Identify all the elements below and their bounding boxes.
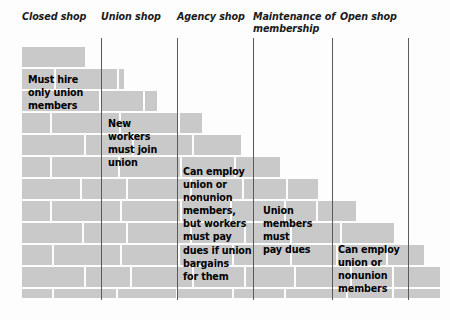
divider-3 xyxy=(253,38,254,300)
brick-r9-c3 xyxy=(128,223,190,243)
brick-r6-c1 xyxy=(22,157,50,177)
brick-r7-c2 xyxy=(82,179,126,199)
brick-r12-c1 xyxy=(22,289,52,298)
brick-r5-c4 xyxy=(194,135,241,155)
divider-1 xyxy=(101,38,102,300)
brick-r8-c2 xyxy=(52,201,120,221)
brick-r12-c3 xyxy=(118,289,176,298)
caption-maintenance-of-membership: Union members must pay dues xyxy=(263,204,312,256)
brick-r4-c1 xyxy=(22,113,50,133)
brick-r11-c8 xyxy=(394,267,440,287)
brick-r5-c1 xyxy=(22,135,84,155)
brick-r4-c4 xyxy=(180,113,202,133)
divider-4 xyxy=(332,38,333,300)
caption-union-shop: New workers must join union xyxy=(108,117,157,169)
caption-closed-shop: Must hire only union members xyxy=(28,73,83,112)
brick-r7-c3 xyxy=(128,179,190,199)
brick-r12-c8 xyxy=(394,289,440,298)
brick-r12-c2 xyxy=(54,289,116,298)
brick-r3-c3 xyxy=(145,91,157,111)
caption-agency-shop: Can employ union or nonunion members, bu… xyxy=(183,165,251,283)
brick-r11-c1 xyxy=(22,267,84,287)
column-header-maintenance-of-membership: Maintenance of membership xyxy=(253,11,335,34)
brick-r8-c3 xyxy=(122,201,180,221)
brick-r8-c7 xyxy=(318,201,356,221)
brick-r9-c7 xyxy=(342,223,394,243)
brick-r12-c4 xyxy=(178,289,232,298)
brick-r12-c6 xyxy=(286,289,346,298)
divider-5 xyxy=(408,38,409,300)
caption-open-shop: Can employ union or nonunion members xyxy=(338,243,400,295)
brick-r12-c5 xyxy=(234,289,284,298)
brick-r11-c2 xyxy=(86,267,130,287)
brick-r7-c6 xyxy=(288,179,318,199)
figure-canvas: Closed shopUnion shopAgency shopMaintena… xyxy=(0,0,450,320)
brick-r3-c2 xyxy=(101,91,143,111)
brick-r8-c1 xyxy=(22,201,50,221)
column-header-closed-shop: Closed shop xyxy=(22,11,86,23)
brick-r9-c2 xyxy=(84,223,126,243)
divider-2 xyxy=(177,38,178,300)
brick-r10-c3 xyxy=(122,245,178,265)
brick-r10-c1 xyxy=(22,245,52,265)
brick-r2-c3 xyxy=(119,69,124,89)
brick-r1-c1 xyxy=(22,47,85,67)
column-header-open-shop: Open shop xyxy=(340,11,397,23)
brick-r10-c2 xyxy=(54,245,120,265)
column-header-agency-shop: Agency shop xyxy=(177,11,245,23)
brick-r7-c1 xyxy=(22,179,80,199)
brick-r9-c1 xyxy=(22,223,82,243)
column-header-union-shop: Union shop xyxy=(101,11,161,23)
